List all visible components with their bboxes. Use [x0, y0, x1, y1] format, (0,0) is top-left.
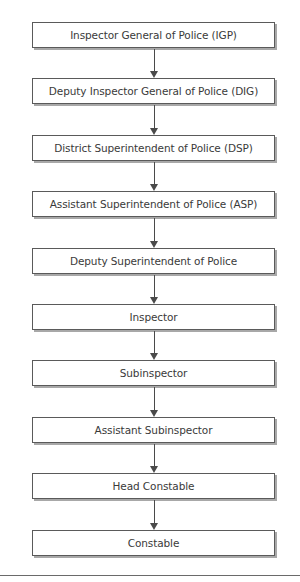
node-label: Deputy Superintendent of Police [70, 255, 237, 267]
node-label: Subinspector [120, 367, 188, 379]
node-deputy-superintendent: Deputy Superintendent of Police [32, 248, 275, 274]
node-assistant-subinspector: Assistant Subinspector [32, 417, 275, 443]
node-label: Head Constable [113, 480, 195, 492]
node-subinspector: Subinspector [32, 360, 275, 386]
police-hierarchy-diagram: Inspector General of Police (IGP) Deputy… [0, 0, 300, 582]
node-label: Assistant Superintendent of Police (ASP) [50, 198, 258, 210]
node-label: Deputy Inspector General of Police (DIG) [49, 85, 258, 97]
node-constable: Constable [32, 530, 275, 556]
node-label: District Superintendent of Police (DSP) [54, 142, 252, 154]
arrow-down-icon [150, 218, 159, 248]
node-dsp: District Superintendent of Police (DSP) [32, 135, 275, 161]
node-label: Inspector General of Police (IGP) [70, 29, 237, 41]
arrow-down-icon [150, 331, 159, 360]
arrow-down-icon [150, 500, 159, 530]
node-igp: Inspector General of Police (IGP) [32, 22, 275, 48]
node-head-constable: Head Constable [32, 473, 275, 499]
arrow-down-icon [150, 49, 159, 78]
node-dig: Deputy Inspector General of Police (DIG) [32, 78, 275, 104]
arrow-down-icon [150, 275, 159, 304]
arrow-down-icon [150, 387, 159, 417]
node-label: Constable [128, 537, 180, 549]
arrow-down-icon [150, 444, 159, 473]
arrow-down-icon [150, 105, 159, 135]
node-inspector: Inspector [32, 304, 275, 330]
node-asp: Assistant Superintendent of Police (ASP) [32, 191, 275, 217]
node-label: Assistant Subinspector [95, 424, 213, 436]
node-label: Inspector [129, 311, 177, 323]
arrow-down-icon [150, 162, 159, 191]
bottom-divider [0, 575, 300, 576]
